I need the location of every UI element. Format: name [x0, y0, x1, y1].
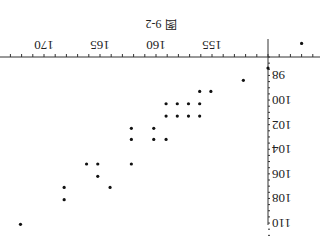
axis-ticks [10, 54, 312, 235]
data-point [130, 138, 133, 141]
x-tick-label: 155 [202, 38, 222, 53]
data-point [152, 138, 155, 141]
data-point [187, 102, 190, 105]
data-point [198, 114, 201, 117]
data-point [300, 42, 303, 45]
data-point [187, 114, 190, 117]
data-point [108, 186, 111, 189]
data-point [176, 102, 179, 105]
data-point [63, 186, 66, 189]
y-tick-label: 102 [272, 118, 292, 133]
data-point [85, 162, 88, 165]
chart-title: 图 9-2 [146, 17, 177, 31]
data-point [130, 162, 133, 165]
data-point [164, 102, 167, 105]
x-tick-label: 170 [34, 38, 54, 53]
data-point [242, 79, 245, 82]
data-point [96, 162, 99, 165]
data-points [19, 42, 303, 226]
y-tick-label: 100 [272, 93, 292, 108]
y-tick-label: 106 [272, 167, 292, 182]
y-tick-label: 98 [272, 68, 285, 83]
y-tick-label: 110 [272, 216, 291, 231]
data-point [96, 175, 99, 178]
data-point [19, 223, 22, 226]
x-tick-label: 165 [90, 38, 110, 53]
y-tick-label: 108 [272, 191, 292, 206]
data-point [164, 114, 167, 117]
data-point [63, 198, 66, 201]
data-point [266, 66, 269, 69]
data-point [176, 114, 179, 117]
y-tick-label: 104 [272, 142, 292, 157]
data-point [164, 138, 167, 141]
tick-labels: 15516016517098100102104106108110 [34, 38, 291, 231]
data-point [198, 102, 201, 105]
data-point [198, 90, 201, 93]
data-point [152, 127, 155, 130]
plot-area: 15516016517098100102104106108110 图 9-2 [0, 0, 322, 245]
data-point [130, 127, 133, 130]
x-tick-label: 160 [146, 38, 166, 53]
data-point [209, 90, 212, 93]
scatter-chart: 15516016517098100102104106108110 图 9-2 [0, 0, 322, 245]
